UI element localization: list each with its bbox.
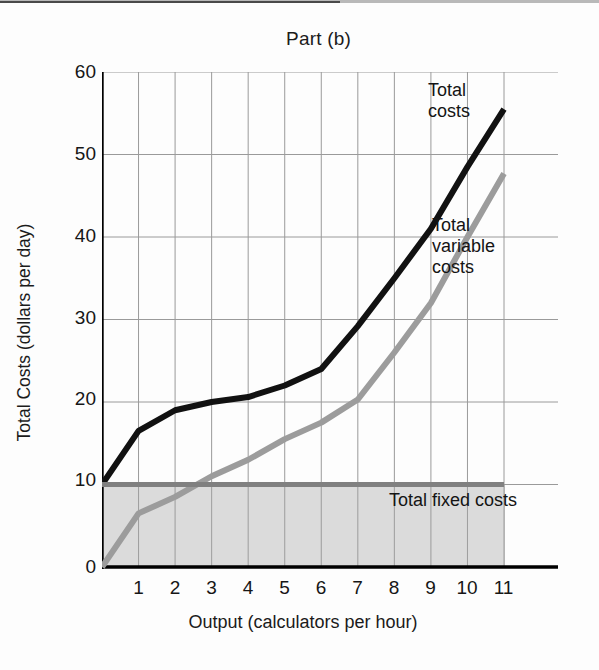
- y-axis-title: Total Costs (dollars per day): [14, 168, 35, 498]
- y-tick-20: 20: [50, 389, 96, 408]
- x-tick-7: 7: [343, 578, 373, 597]
- y-tick-50: 50: [50, 144, 96, 163]
- x-tick-4: 4: [233, 578, 263, 597]
- x-tick-11: 11: [489, 578, 519, 597]
- annotation-total-costs-line1: Total: [428, 80, 524, 101]
- y-tick-60: 60: [50, 62, 96, 81]
- figure-container: Part (b) Total Costs (dollars per day) O…: [0, 0, 599, 670]
- y-tick-30: 30: [50, 308, 96, 327]
- x-tick-5: 5: [270, 578, 300, 597]
- annotation-total-costs-line2: costs: [428, 101, 524, 122]
- x-tick-3: 3: [197, 578, 227, 597]
- x-tick-6: 6: [306, 578, 336, 597]
- chart-title-text: Part (b): [286, 28, 351, 50]
- annotation-total-variable-costs-line2: variable: [432, 236, 536, 257]
- x-tick-9: 9: [416, 578, 446, 597]
- annotation-total-fixed-costs: Total fixed costs: [389, 490, 549, 511]
- x-tick-8: 8: [379, 578, 409, 597]
- annotation-total-variable-costs-line1: Total: [432, 215, 536, 236]
- y-tick-0: 0: [50, 557, 96, 576]
- annotation-total-variable-costs: Total variable costs: [432, 215, 536, 278]
- y-tick-10: 10: [50, 470, 96, 489]
- x-axis-tick-labels: 1 2 3 4 5 6 7 8 9 10 11: [0, 578, 599, 604]
- y-axis-tick-labels: 60 50 40 30 20 10 0: [40, 0, 96, 670]
- y-tick-40: 40: [50, 226, 96, 245]
- x-tick-10: 10: [452, 578, 482, 597]
- x-axis-title: Output (calculators per hour): [102, 612, 504, 633]
- x-tick-2: 2: [160, 578, 190, 597]
- x-tick-1: 1: [124, 578, 154, 597]
- annotation-total-variable-costs-line3: costs: [432, 257, 536, 278]
- annotation-total-costs: Total costs: [428, 80, 524, 122]
